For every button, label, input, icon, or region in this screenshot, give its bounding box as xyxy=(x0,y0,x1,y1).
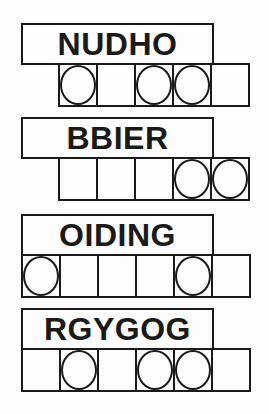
scrambled-word-box-2: BBIER xyxy=(21,117,214,159)
answer-cell xyxy=(97,254,137,298)
answer-cell xyxy=(96,63,136,107)
answer-cell xyxy=(172,157,212,201)
answer-cell xyxy=(21,254,61,298)
circle-marker xyxy=(175,350,211,390)
answer-cell xyxy=(135,254,175,298)
answer-cell xyxy=(21,348,61,392)
jumble-puzzle-4: RGYGOG xyxy=(0,308,269,394)
answer-cell xyxy=(173,254,213,298)
circle-marker xyxy=(174,65,210,105)
answer-cell xyxy=(134,63,174,107)
scrambled-word-box-1: NUDHO xyxy=(21,23,214,65)
answer-cell xyxy=(211,348,251,392)
circle-marker xyxy=(23,256,59,296)
answer-cells-row-2 xyxy=(58,157,250,201)
scrambled-word-3: OIDING xyxy=(59,219,176,251)
scrambled-word-box-4: RGYGOG xyxy=(21,308,214,350)
answer-cell xyxy=(58,157,98,201)
answer-cell xyxy=(59,348,99,392)
answer-cell xyxy=(210,63,250,107)
circle-marker xyxy=(136,65,172,105)
circle-marker xyxy=(61,350,97,390)
circle-marker xyxy=(174,159,210,199)
scrambled-word-2: BBIER xyxy=(66,122,168,154)
answer-cell xyxy=(173,348,213,392)
answer-cell xyxy=(135,348,175,392)
answer-cell xyxy=(58,63,98,107)
jumble-puzzle-2: BBIER xyxy=(0,117,269,203)
circle-marker xyxy=(212,159,248,199)
answer-cells-row-1 xyxy=(58,63,250,107)
jumble-puzzle-3: OIDING xyxy=(0,214,269,300)
answer-cells-row-4 xyxy=(21,348,251,392)
answer-cell xyxy=(211,254,251,298)
jumble-puzzle-1: NUDHO xyxy=(0,23,269,109)
circle-marker xyxy=(137,350,173,390)
jumble-puzzle-page: NUDHO BBIER OIDING RGYGOG xyxy=(0,0,269,414)
scrambled-word-4: RGYGOG xyxy=(44,313,191,345)
circle-marker xyxy=(175,256,211,296)
answer-cell xyxy=(96,157,136,201)
answer-cells-row-3 xyxy=(21,254,251,298)
answer-cell xyxy=(210,157,250,201)
scrambled-word-box-3: OIDING xyxy=(21,214,214,256)
answer-cell xyxy=(172,63,212,107)
scrambled-word-1: NUDHO xyxy=(58,28,178,60)
answer-cell xyxy=(134,157,174,201)
answer-cell xyxy=(97,348,137,392)
circle-marker xyxy=(60,65,96,105)
answer-cell xyxy=(59,254,99,298)
